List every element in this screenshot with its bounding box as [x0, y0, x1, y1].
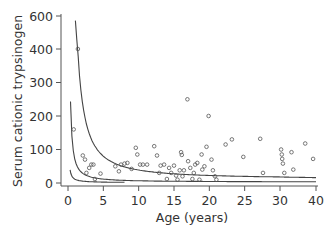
data-point — [290, 150, 294, 154]
data-point — [203, 165, 207, 169]
x-tick-label: 25 — [237, 193, 253, 208]
data-point — [99, 172, 103, 176]
data-points — [72, 47, 315, 181]
data-point — [311, 157, 315, 161]
data-point — [242, 155, 246, 159]
data-point — [136, 153, 140, 157]
data-point — [172, 164, 176, 168]
data-point — [152, 144, 156, 148]
y-tick-label: 400 — [29, 42, 53, 57]
data-point — [191, 177, 195, 181]
data-point — [207, 114, 211, 118]
data-point — [261, 171, 265, 175]
data-point — [280, 157, 284, 161]
data-point — [292, 168, 296, 172]
data-point — [181, 175, 185, 179]
data-point — [224, 143, 228, 147]
data-point — [117, 170, 121, 174]
x-tick-label: 20 — [201, 193, 217, 208]
data-point — [155, 154, 159, 158]
y-axis: 0100200300400600 — [29, 9, 61, 191]
data-point — [205, 145, 209, 149]
data-point — [283, 171, 287, 175]
y-tick-label: 100 — [29, 142, 53, 157]
data-point — [162, 163, 166, 167]
x-tick-label: 30 — [272, 193, 288, 208]
x-tick-label: 15 — [166, 193, 182, 208]
x-tick-label: 5 — [99, 193, 107, 208]
fitted-curves — [70, 21, 316, 183]
data-point — [167, 166, 171, 170]
data-point — [210, 158, 214, 162]
data-point — [186, 98, 190, 102]
x-tick-label: 0 — [64, 193, 72, 208]
data-point — [145, 163, 149, 167]
x-tick-label: 40 — [308, 193, 324, 208]
data-point — [189, 166, 193, 170]
data-point — [83, 158, 87, 162]
data-point — [303, 142, 307, 146]
y-tick-label: 600 — [29, 9, 53, 24]
data-point — [159, 164, 163, 168]
data-point — [280, 153, 284, 157]
y-axis-title: Serum cationic trypsinogen — [10, 15, 25, 187]
data-point — [182, 169, 186, 173]
data-point — [201, 168, 205, 172]
x-tick-label: 10 — [131, 193, 147, 208]
data-point — [258, 137, 262, 141]
data-point — [186, 159, 190, 163]
data-point — [134, 146, 138, 150]
data-point — [200, 153, 204, 157]
middle-curve — [71, 102, 317, 182]
x-axis-title: Age (years) — [156, 210, 228, 225]
y-tick-label: 300 — [29, 75, 53, 90]
data-point — [192, 171, 196, 175]
data-point — [165, 177, 169, 181]
data-point — [178, 169, 182, 173]
x-axis: 05101520253040 — [61, 186, 324, 208]
data-point — [114, 165, 118, 169]
data-point — [281, 162, 285, 166]
data-point — [279, 148, 283, 152]
data-point — [81, 154, 85, 158]
data-point — [85, 171, 89, 175]
y-tick-label: 200 — [29, 109, 53, 124]
data-point — [72, 128, 76, 132]
data-point — [211, 169, 215, 173]
data-point — [230, 138, 234, 142]
data-point — [87, 166, 91, 170]
y-tick-label: 0 — [45, 176, 53, 191]
scatter-chart: 0100200300400600 05101520253040 Serum ca… — [0, 0, 335, 239]
